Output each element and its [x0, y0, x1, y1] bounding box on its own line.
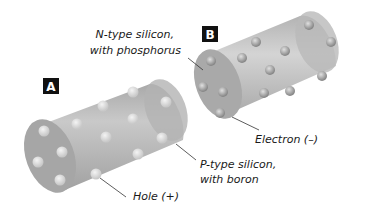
badge-a: A	[43, 78, 59, 94]
svg-text:A: A	[46, 80, 56, 94]
n-type-label-line1: N-type silicon,	[96, 28, 174, 41]
svg-text:B: B	[205, 28, 214, 42]
electron-label: Electron (–)	[255, 133, 318, 146]
n-type-cylinder	[185, 5, 347, 125]
n-type-label-line2: with phosphorus	[90, 44, 181, 57]
p-type-cylinder	[14, 73, 195, 200]
hole-label: Hole (+)	[133, 190, 179, 203]
p-type-label-line1: P-type silicon,	[200, 158, 276, 171]
badge-b: B	[202, 26, 218, 42]
silicon-diagram: A B N-type silicon, with phosphorus Elec…	[0, 0, 372, 218]
p-type-label-line2: with boron	[200, 173, 259, 186]
